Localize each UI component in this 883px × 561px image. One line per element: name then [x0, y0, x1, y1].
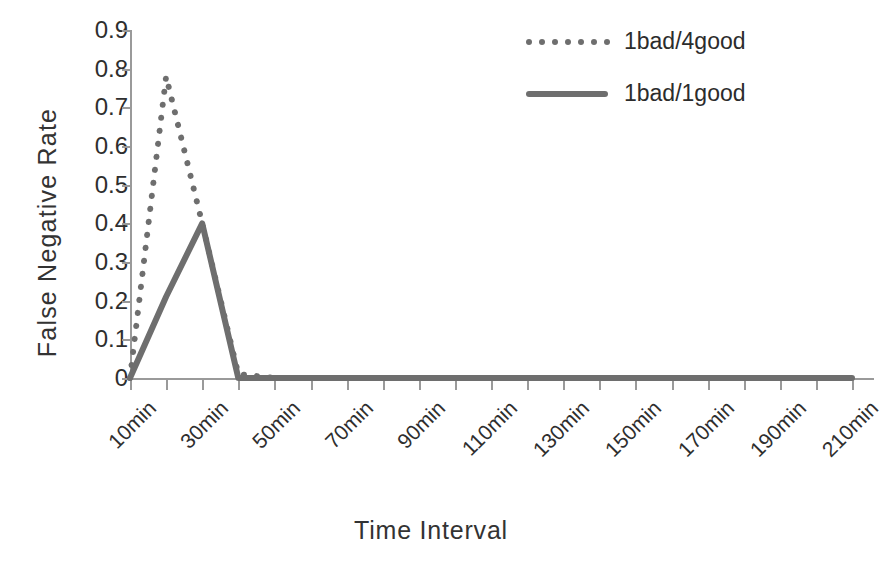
chart-legend: 1bad/4good1bad/1good — [520, 28, 840, 128]
series-1bad-1good — [130, 223, 852, 378]
legend-dotted-key-icon — [520, 33, 612, 51]
legend-dot-icon — [526, 39, 532, 45]
legend-item[interactable]: 1bad/4good — [520, 28, 746, 55]
legend-item[interactable]: 1bad/1good — [520, 80, 746, 107]
legend-line-icon — [526, 91, 608, 97]
x-axis-tick-labels: 10min30min50min70min90min110min130min150… — [0, 396, 862, 516]
x-axis-title: Time Interval — [0, 516, 862, 545]
legend-dot-icon — [578, 39, 584, 45]
legend-dot-icon — [604, 39, 610, 45]
legend-dot-icon — [539, 39, 545, 45]
legend-solid-key-icon — [520, 85, 612, 103]
legend-item-label: 1bad/1good — [624, 80, 746, 107]
legend-dot-icon — [552, 39, 558, 45]
legend-item-label: 1bad/4good — [624, 28, 746, 55]
legend-dot-icon — [591, 39, 597, 45]
legend-dot-icon — [565, 39, 571, 45]
